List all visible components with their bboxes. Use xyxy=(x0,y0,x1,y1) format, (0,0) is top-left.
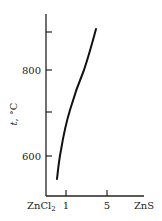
y-label-800: 800 xyxy=(22,65,41,76)
chart: 800 600 t, °C ZnCl2 1 5 ZnS xyxy=(0,0,162,221)
y-axis-title: t, °C xyxy=(8,102,19,125)
y-label-600: 600 xyxy=(22,151,41,162)
x-label-zns: ZnS xyxy=(134,200,154,211)
x-label-subscript: 2 xyxy=(51,205,55,213)
x-label-zncl2: ZnCl2 xyxy=(27,200,56,213)
x-label-5: 5 xyxy=(104,200,110,211)
x-label-1: 1 xyxy=(63,200,69,211)
data-curve xyxy=(57,29,96,179)
x-label-zncl: ZnCl xyxy=(27,200,51,211)
y-axis-title-unit: , °C xyxy=(8,102,19,121)
